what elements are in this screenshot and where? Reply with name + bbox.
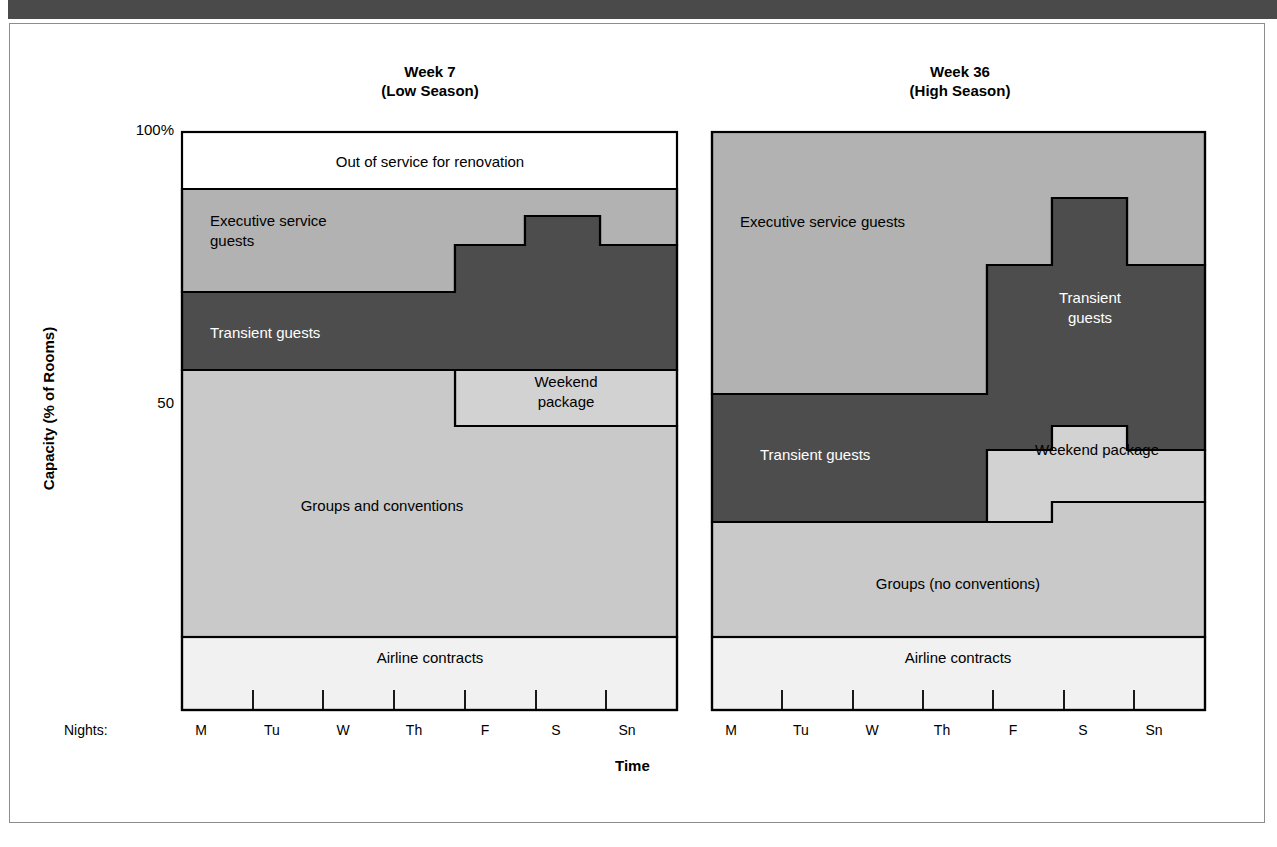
- panel-right-plot: Executive service guests Transient guest…: [712, 132, 1205, 710]
- label-left-weekend-line2: package: [538, 393, 595, 410]
- label-left-groups: Groups and conventions: [301, 497, 464, 514]
- label-right-groups: Groups (no conventions): [876, 575, 1040, 592]
- label-left-transient: Transient guests: [210, 324, 320, 341]
- label-right-weekend-package: Weekend package: [1035, 441, 1159, 458]
- label-left-weekend-line1: Weekend: [534, 373, 597, 390]
- band-left-airline: [182, 637, 677, 710]
- band-right-groups: [712, 502, 1205, 637]
- label-left-executive-line2: guests: [210, 232, 254, 249]
- band-right-airline: [712, 637, 1205, 710]
- figure-page: Week 7 (Low Season) Week 36 (High Season…: [0, 0, 1277, 847]
- label-right-transient-top-line1: Transient: [1059, 289, 1122, 306]
- label-left-renovation: Out of service for renovation: [336, 153, 524, 170]
- label-right-transient: Transient guests: [760, 446, 870, 463]
- label-left-airline: Airline contracts: [377, 649, 484, 666]
- stacked-area-chart: Out of service for renovation Executive …: [0, 0, 1277, 847]
- label-right-executive: Executive service guests: [740, 213, 905, 230]
- panel-left-plot: Out of service for renovation Executive …: [182, 132, 677, 710]
- label-left-executive-line1: Executive service: [210, 212, 327, 229]
- label-right-transient-top-line2: guests: [1068, 309, 1112, 326]
- label-right-airline: Airline contracts: [905, 649, 1012, 666]
